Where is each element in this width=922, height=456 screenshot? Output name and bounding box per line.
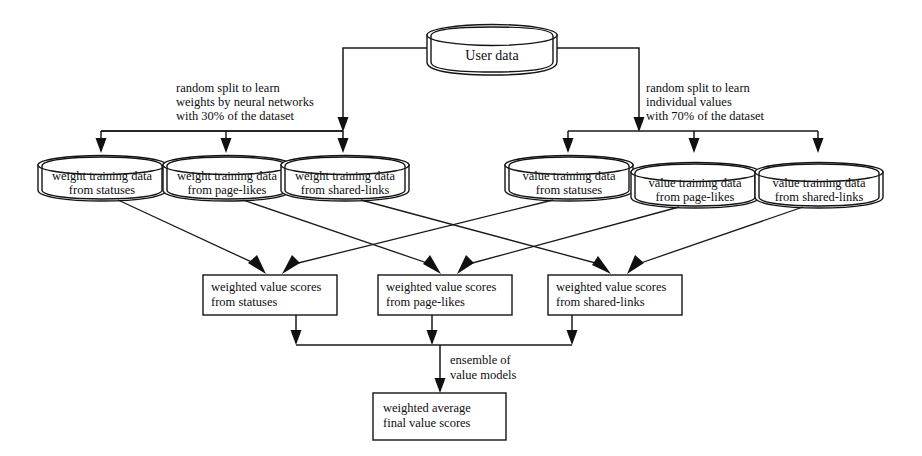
node-weight-statuses-line-1: weight training data (52, 169, 152, 183)
bus-weight-distribution (96, 131, 349, 153)
edge-user-data-to-value-bus (557, 48, 645, 132)
annotation-ensemble-line-1: ensemble of (450, 353, 512, 367)
annotation-right-split: random split to learn individual values … (646, 81, 765, 123)
node-weight-page-likes: weight training data from page-likes (163, 156, 291, 202)
edge-weight-shared-links-to-scores-shared-links (361, 200, 611, 274)
edge-weight-statuses-to-scores-statuses (118, 200, 266, 274)
annotation-ensemble-line-2: value models (450, 368, 516, 382)
annotation-left-split: random split to learn weights by neural … (176, 81, 314, 123)
annotation-right-split-line-2: individual values (646, 95, 732, 109)
edge-scores-page-likes-to-ensemble (427, 315, 438, 345)
node-scores-statuses: weighted value scores from statuses (203, 275, 337, 315)
annotation-right-split-line-3: with 70% of the dataset (646, 109, 765, 123)
node-final-value-scores: weighted average final value scores (373, 393, 506, 440)
diagram-canvas: User data (0, 0, 922, 456)
annotation-left-split-line-3: with 30% of the dataset (176, 109, 295, 123)
node-weight-statuses-line-2: from statuses (69, 183, 135, 197)
node-scores-page-likes-line-1: weighted value scores (386, 280, 497, 294)
annotation-right-split-line-1: random split to learn (646, 81, 751, 95)
node-value-statuses: value training data from statuses (505, 156, 633, 202)
node-value-shared-links: value training data from shared-links (755, 163, 883, 209)
node-scores-page-likes: weighted value scores from page-likes (378, 275, 512, 315)
edge-value-page-likes-to-scores-page-likes (457, 207, 679, 274)
node-value-page-likes-line-2: from page-likes (656, 190, 735, 204)
node-value-page-likes-line-1: value training data (648, 176, 741, 190)
node-value-statuses-line-2: from statuses (536, 183, 602, 197)
node-scores-shared-links-line-1: weighted value scores (556, 280, 667, 294)
node-weight-statuses: weight training data from statuses (38, 156, 166, 202)
node-value-shared-links-line-1: value training data (772, 176, 865, 190)
node-scores-shared-links: weighted value scores from shared-links (548, 275, 682, 315)
node-final-value-scores-line-1: weighted average (383, 401, 471, 415)
node-scores-statuses-line-2: from statuses (211, 295, 277, 309)
bus-value-distribution (563, 131, 824, 153)
node-scores-statuses-line-1: weighted value scores (211, 280, 322, 294)
edge-user-data-to-weight-bus (338, 48, 428, 132)
node-value-page-likes: value training data from page-likes (631, 163, 759, 209)
node-weight-shared-links-line-2: from shared-links (301, 183, 390, 197)
node-weight-shared-links: weight training data from shared-links (281, 156, 409, 202)
node-weight-shared-links-line-1: weight training data (295, 169, 395, 183)
node-user-data-label: User data (465, 48, 519, 63)
edge-value-shared-links-to-scores-shared-links (627, 207, 803, 274)
edge-weight-page-likes-to-scores-page-likes (243, 200, 441, 274)
node-value-statuses-line-1: value training data (522, 169, 615, 183)
bus-ensemble (296, 345, 572, 393)
node-value-shared-links-line-2: from shared-links (775, 190, 864, 204)
annotation-left-split-line-1: random split to learn (176, 81, 281, 95)
node-final-value-scores-line-2: final value scores (383, 416, 471, 430)
edge-scores-statuses-to-ensemble (291, 315, 302, 345)
node-scores-page-likes-line-2: from page-likes (386, 295, 465, 309)
pipeline-diagram: User data (0, 0, 922, 456)
node-weight-page-likes-line-2: from page-likes (188, 183, 267, 197)
node-weight-page-likes-line-1: weight training data (177, 169, 277, 183)
edge-scores-shared-links-to-ensemble (567, 315, 578, 345)
annotation-left-split-line-2: weights by neural networks (176, 95, 314, 109)
node-scores-shared-links-line-2: from shared-links (556, 295, 645, 309)
edge-value-statuses-to-scores-statuses (282, 200, 553, 274)
node-user-data: User data (427, 25, 557, 76)
annotation-ensemble: ensemble of value models (450, 353, 516, 382)
